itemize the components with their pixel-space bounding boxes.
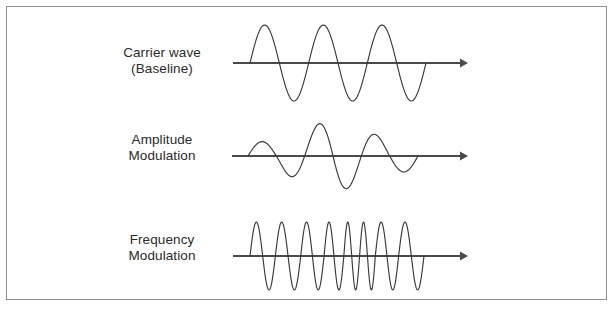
carrier-wave-label: Carrier wave (Baseline) xyxy=(96,45,228,77)
frequency-modulation-row: Frequency Modulation xyxy=(0,206,616,306)
axis-arrow-right-icon xyxy=(460,151,468,160)
modulation-figure: Carrier wave (Baseline) Amplitude Modula… xyxy=(0,0,616,313)
amplitude-modulation-label-line1: Amplitude xyxy=(132,132,193,147)
amplitude-modulation-row: Amplitude Modulation xyxy=(0,106,616,206)
frequency-modulation-label-line2: Modulation xyxy=(96,248,228,264)
carrier-wave-label-line1: Carrier wave xyxy=(123,45,201,60)
axis-arrow-right-icon xyxy=(460,251,468,260)
amplitude-modulation-plot xyxy=(228,106,478,206)
amplitude-modulation-label: Amplitude Modulation xyxy=(96,132,228,164)
frequency-modulation-label-line1: Frequency xyxy=(130,232,195,247)
carrier-wave-plot xyxy=(228,13,478,113)
carrier-wave-row: Carrier wave (Baseline) xyxy=(0,13,616,113)
carrier-wave-label-line2: (Baseline) xyxy=(96,61,228,77)
amplitude-modulation-label-line2: Modulation xyxy=(96,148,228,164)
axis-arrow-right-icon xyxy=(460,58,468,67)
frequency-modulation-label: Frequency Modulation xyxy=(96,232,228,264)
frequency-modulation-plot xyxy=(228,206,478,306)
